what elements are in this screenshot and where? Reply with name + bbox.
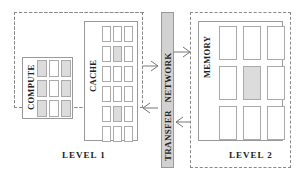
arrow-left-icon	[143, 103, 158, 113]
arrows-layer	[0, 0, 305, 179]
arrow-right-icon	[174, 47, 190, 57]
arrow-right-icon	[143, 61, 158, 71]
arrow-left-icon	[176, 117, 190, 127]
